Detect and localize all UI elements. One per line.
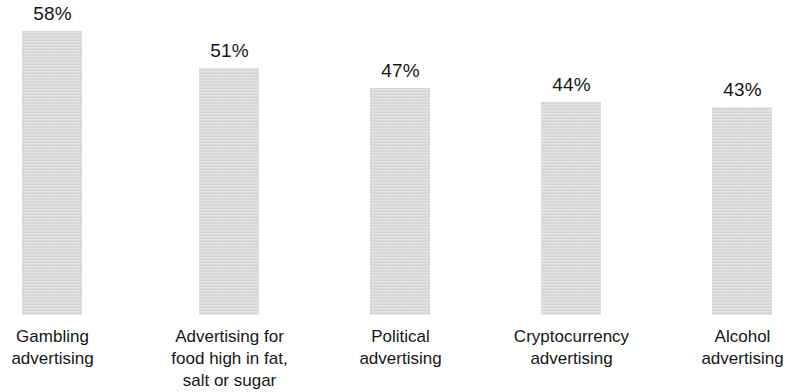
bar-value-label: 58% (0, 4, 138, 23)
bar-category-line: advertising (483, 348, 660, 370)
bar-category-label: Alcohol advertising (654, 326, 794, 370)
bar-rect (712, 107, 772, 315)
bar-value-label: 47% (315, 61, 486, 80)
bar-category-line: Cryptocurrency (483, 326, 660, 348)
bar-category-label: Cryptocurrency advertising (483, 326, 660, 370)
bar-value-label: 44% (486, 75, 657, 94)
bar-value-label: 51% (144, 41, 315, 60)
bar-category-line: advertising (0, 348, 141, 370)
bar-category-line: salt or sugar (141, 370, 318, 392)
chart-plot-area: 58% Gambling advertising 51% Advertising… (0, 0, 794, 392)
bar-value-label: 43% (657, 80, 794, 99)
bar-category-line: Alcohol (654, 326, 794, 348)
bar-category-line: Gambling (0, 326, 141, 348)
bar-category-line: Political (312, 326, 489, 348)
bar-group: 47% Political advertising (315, 0, 486, 392)
bar-rect (22, 31, 82, 315)
bar-category-label: Advertising for food high in fat, salt o… (141, 326, 318, 392)
bar-rect (199, 68, 259, 315)
bar-group: 44% Cryptocurrency advertising (486, 0, 657, 392)
bar-category-line: advertising (654, 348, 794, 370)
bar-category-label: Political advertising (312, 326, 489, 370)
bar-category-line: food high in fat, (141, 348, 318, 370)
bar-chart-figure: 58% Gambling advertising 51% Advertising… (0, 0, 794, 392)
bar-category-line: advertising (312, 348, 489, 370)
bar-group: 43% Alcohol advertising (657, 0, 794, 392)
bar-group: 58% Gambling advertising (0, 0, 138, 392)
bar-category-line: Advertising for (141, 326, 318, 348)
bar-group: 51% Advertising for food high in fat, sa… (144, 0, 315, 392)
bar-category-label: Gambling advertising (0, 326, 141, 370)
bar-rect (541, 102, 601, 315)
bar-rect (370, 88, 430, 315)
